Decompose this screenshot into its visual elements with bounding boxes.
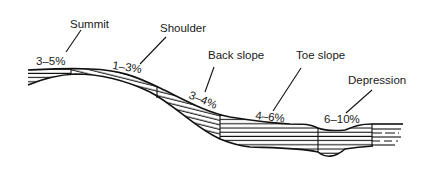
summit-hatch (0, 40, 71, 120)
summit-slope: 3–5% (36, 55, 65, 67)
shoulder-label: Shoulder (160, 22, 206, 34)
strata-extension (372, 124, 403, 145)
hillslope-diagram: Summit Shoulder Back slope Toe slope Dep… (0, 0, 431, 184)
summit-leader (66, 30, 81, 52)
toe-slope-leader (273, 68, 301, 111)
back-slope-leader (205, 67, 214, 92)
shoulder-leader (140, 37, 166, 64)
toe-slope-hatch (220, 90, 318, 170)
slope-hatch (71, 40, 220, 170)
depression-hatch (318, 100, 373, 170)
toe-slope-label: Toe slope (296, 49, 345, 61)
depression-slope: 6–10% (324, 113, 360, 125)
depression-label: Depression (348, 74, 406, 86)
depression-leader (346, 90, 372, 113)
back-slope-label: Back slope (208, 49, 264, 61)
summit-label: Summit (70, 18, 110, 30)
